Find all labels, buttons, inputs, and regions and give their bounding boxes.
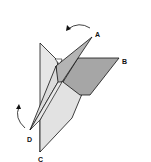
fold-arrow-d-curve — [17, 107, 25, 128]
origami-diagram: A B C D — [0, 0, 151, 162]
diagram-canvas: A B C D — [0, 0, 151, 162]
label-b: B — [122, 58, 127, 65]
fold-arrow-a-head — [66, 25, 71, 31]
label-c: C — [38, 156, 43, 162]
label-d: D — [27, 136, 32, 143]
label-a: A — [95, 31, 100, 38]
fold-arrow-d-head — [16, 104, 21, 109]
fold-arrow-a-curve — [68, 25, 90, 29]
